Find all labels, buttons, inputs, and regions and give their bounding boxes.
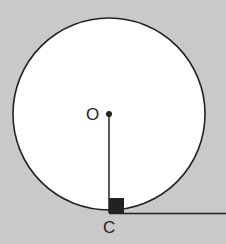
label-c: C [103, 219, 115, 236]
label-o: O [86, 106, 99, 123]
right-angle-marker [109, 198, 124, 213]
center-point [106, 111, 112, 117]
diagram-canvas: O C [0, 0, 226, 244]
geometry-figure [0, 0, 226, 244]
